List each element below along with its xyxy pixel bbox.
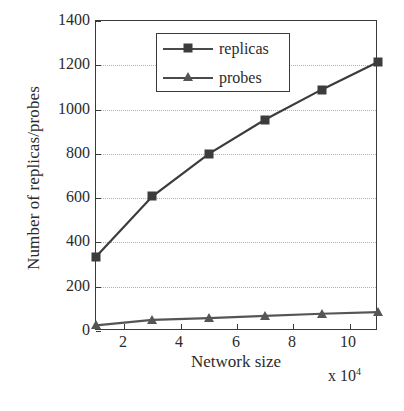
x-tick-label: 8 (272, 333, 312, 351)
data-point-replicas (374, 57, 383, 66)
data-point-replicas (92, 252, 101, 261)
y-tick-label: 0 (34, 321, 90, 339)
legend-item-replicas[interactable]: replicas (157, 34, 289, 63)
legend-label: replicas (219, 40, 269, 58)
y-tick-mark (96, 331, 101, 332)
x-tick-label: 4 (159, 333, 199, 351)
data-point-probes (260, 311, 270, 320)
data-point-probes (317, 309, 327, 318)
x-tick-label: 10 (328, 333, 368, 351)
x-tick-label: 2 (103, 333, 143, 351)
y-tick-label: 800 (34, 144, 90, 162)
x-axis-multiplier: x 104 (328, 366, 361, 385)
data-point-replicas (261, 115, 270, 124)
y-tick-label: 600 (34, 188, 90, 206)
y-tick-label: 1200 (34, 55, 90, 73)
data-point-probes (147, 315, 157, 324)
data-point-probes (91, 321, 101, 330)
legend-item-probes[interactable]: probes (157, 63, 289, 92)
legend-label: probes (219, 69, 262, 87)
square-marker (163, 39, 213, 59)
triangle-marker (163, 68, 213, 88)
y-axis-tick-labels: 1400 1200 1000 800 600 400 200 0 (30, 0, 90, 411)
x-axis-multiplier-exponent: 4 (356, 366, 361, 377)
data-point-probes (373, 307, 383, 316)
data-point-probes (204, 313, 214, 322)
chart-figure: Number of replicas/probes 1400 1200 1000… (0, 0, 404, 411)
y-tick-label: 1000 (34, 100, 90, 118)
x-axis-multiplier-base: x 10 (328, 367, 356, 384)
series-line-probes (96, 312, 378, 325)
data-point-replicas (148, 192, 157, 201)
x-tick-label: 6 (216, 333, 256, 351)
y-tick-label: 200 (34, 277, 90, 295)
legend: replicas probes (156, 33, 290, 92)
y-tick-label: 1400 (34, 11, 90, 29)
data-point-replicas (317, 85, 326, 94)
y-tick-label: 400 (34, 232, 90, 250)
data-point-replicas (204, 149, 213, 158)
